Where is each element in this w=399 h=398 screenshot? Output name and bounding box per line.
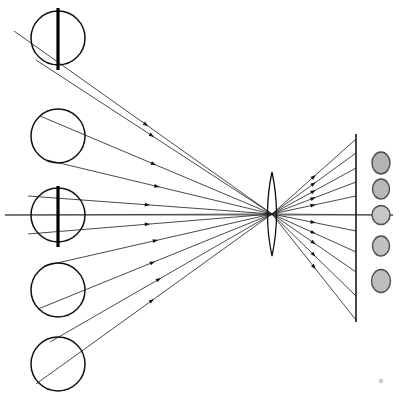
speck-group (379, 379, 384, 384)
image-blob-1 (372, 152, 390, 174)
ray-img2-a-arrowhead (310, 190, 315, 194)
object-4 (31, 263, 85, 317)
ray-obj2-lower-arrowhead (154, 184, 159, 188)
image-blobs-group (372, 152, 391, 293)
ray-obj4-lower-arrowhead (149, 262, 155, 266)
ray-obj1-upper-arrowhead (143, 122, 148, 127)
diagram-canvas (0, 0, 399, 398)
ray-img1-b-arrowhead (310, 182, 315, 187)
arrowheads-group (143, 122, 316, 304)
ray-img2-b-arrowhead (310, 197, 316, 201)
corner-speck (379, 379, 384, 384)
object-2 (31, 109, 85, 163)
ray-obj5-upper-arrowhead (156, 278, 161, 282)
ray-obj1-upper (14, 31, 272, 214)
ray-img4-a-arrowhead (310, 230, 316, 234)
image-blob-3 (372, 206, 390, 225)
optics-ray-diagram (0, 0, 399, 398)
ray-obj2-upper-arrowhead (150, 161, 156, 165)
image-blob-2 (373, 179, 390, 199)
rays-object-side (5, 31, 272, 384)
ray-img3-b-arrowhead (310, 220, 315, 224)
ray-obj1-lower-arrowhead (149, 133, 154, 137)
ray-img4-b-arrowhead (310, 240, 315, 245)
image-blob-5 (372, 270, 391, 293)
object-5 (31, 337, 85, 391)
image-blob-4 (373, 236, 390, 256)
ray-obj5-lower-arrowhead (149, 299, 154, 304)
